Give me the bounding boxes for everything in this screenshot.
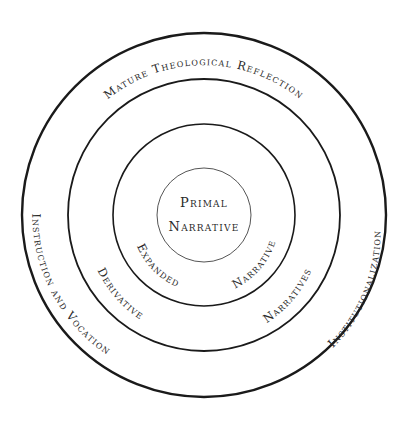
ring-derivative [68,79,340,351]
label-expanded: Expanded [134,241,183,290]
label-derivative: Derivative [95,265,148,322]
label-instruction-and-vocation: Instruction and Vocation [29,213,114,358]
label-narrative-expanded: Narrative [229,237,278,291]
label-mature-theological-reflection: Mature Theological Reflection [101,54,307,102]
label-primal: Primal [180,195,228,210]
label-institutionalization: Institutionalization [325,230,384,351]
concentric-circles-diagram: Primal Narrative Mature Theological Refl… [0,0,408,429]
label-narratives: Narratives [260,265,314,325]
ring-expanded [113,124,295,306]
label-narrative-center: Narrative [169,219,240,234]
ring-primal [157,168,251,262]
